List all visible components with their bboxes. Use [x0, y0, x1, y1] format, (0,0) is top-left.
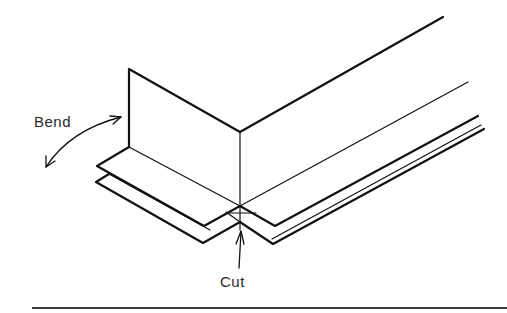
vertical-panel: [129, 17, 443, 230]
lower-sheet: [96, 125, 484, 244]
cut-label: Cut: [220, 273, 245, 290]
bottom-rule-divider: [32, 307, 507, 309]
bend-label: Bend: [34, 113, 71, 130]
cut-arrow-icon: [236, 231, 244, 268]
sheet-angle-diagram: [0, 0, 507, 313]
upper-flange: [97, 82, 478, 226]
